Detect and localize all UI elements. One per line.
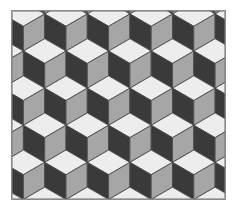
cube-tessellation-figure [11,10,226,200]
tiling-canvas [12,11,225,199]
